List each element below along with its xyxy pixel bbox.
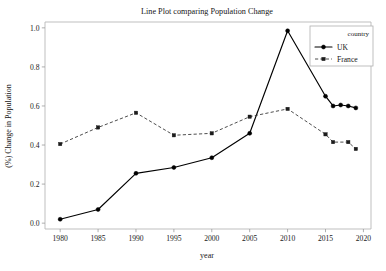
chart-title: Line Plot comparing Population Change: [141, 7, 273, 16]
chart-legend: countryUKFrance: [310, 26, 373, 66]
x-tick-label: 2020: [356, 234, 371, 243]
legend-marker: [322, 57, 325, 60]
x-tick-label: 2015: [318, 234, 333, 243]
data-point: [324, 133, 327, 136]
y-tick-label: 0.8: [30, 63, 40, 72]
data-point: [58, 217, 62, 221]
y-axis-label: (%) Change in Population: [4, 84, 13, 167]
x-tick-label: 1980: [53, 234, 68, 243]
x-tick-label: 2005: [242, 234, 257, 243]
data-point: [210, 132, 213, 135]
x-tick-label: 2000: [204, 234, 219, 243]
y-tick-label: 1.0: [30, 24, 40, 33]
legend-label: UK: [337, 43, 348, 52]
x-tick-label: 1990: [128, 234, 143, 243]
data-point: [172, 134, 175, 137]
data-point: [347, 140, 350, 143]
data-point: [324, 94, 328, 98]
data-point: [134, 111, 137, 114]
data-point: [172, 165, 176, 169]
legend-label: France: [337, 55, 358, 64]
y-tick-label: 0.2: [30, 180, 40, 189]
y-tick-label: 0.4: [30, 141, 40, 150]
data-point: [248, 115, 251, 118]
data-point: [96, 207, 100, 211]
data-point: [286, 107, 289, 110]
data-point: [346, 104, 350, 108]
legend-marker: [322, 45, 326, 49]
data-point: [210, 156, 214, 160]
line-chart: Line Plot comparing Population Change 19…: [0, 0, 386, 271]
data-point: [58, 142, 61, 145]
data-point: [96, 126, 99, 129]
legend-title: country: [348, 30, 370, 38]
data-point: [354, 147, 357, 150]
data-point: [339, 103, 343, 107]
data-point: [286, 29, 290, 33]
y-tick-label: 0.6: [30, 102, 40, 111]
x-tick-label: 1985: [90, 234, 105, 243]
x-tick-label: 2010: [280, 234, 295, 243]
x-axis-label: year: [200, 251, 214, 260]
y-tick-label: 0.0: [30, 219, 40, 228]
x-tick-label: 1995: [166, 234, 181, 243]
data-point: [134, 171, 138, 175]
data-point: [248, 131, 252, 135]
data-point: [331, 140, 334, 143]
data-point: [354, 106, 358, 110]
chart-figure: Line Plot comparing Population Change 19…: [0, 0, 386, 271]
data-point: [331, 104, 335, 108]
